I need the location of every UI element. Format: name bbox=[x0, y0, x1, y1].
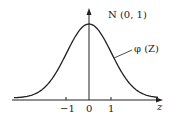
tick-label-neg1: −1 bbox=[60, 104, 75, 114]
curve-leader-line bbox=[114, 50, 132, 58]
distribution-label: N (0, 1) bbox=[108, 10, 147, 20]
curve-label: φ (Z) bbox=[134, 44, 159, 54]
normal-distribution-chart: N (0, 1) φ (Z) −1 0 1 z bbox=[0, 0, 169, 124]
density-curve bbox=[14, 24, 158, 98]
tick-label-1: 1 bbox=[108, 104, 114, 114]
tick-label-0: 0 bbox=[86, 104, 92, 114]
x-axis-label: z bbox=[157, 102, 162, 112]
y-axis-arrow-icon bbox=[87, 8, 92, 15]
